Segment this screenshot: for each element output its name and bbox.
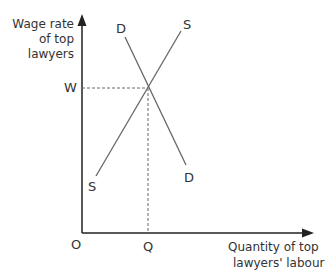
x-axis-label-line2: lawyers' labour xyxy=(233,256,324,270)
y-axis-label-line3: lawyers xyxy=(10,47,74,61)
equilibrium-wage-label: W xyxy=(64,81,77,95)
y-axis-label-line1: Wage rate xyxy=(10,17,74,31)
supply-curve xyxy=(96,31,181,176)
supply-label-bottom: S xyxy=(88,180,96,194)
origin-label: O xyxy=(71,238,81,252)
demand-label-bottom: D xyxy=(184,171,194,185)
demand-label-top: D xyxy=(116,22,126,36)
supply-label-top: S xyxy=(183,18,191,32)
y-axis-label-line2: of top xyxy=(10,32,74,46)
x-axis-label-line1: Quantity of top xyxy=(228,240,319,254)
equilibrium-quantity-label: Q xyxy=(143,240,153,254)
demand-curve xyxy=(125,37,186,165)
